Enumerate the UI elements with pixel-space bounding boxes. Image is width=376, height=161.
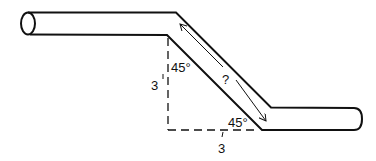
left-pipe-end-icon	[21, 13, 35, 35]
pipe-offset-diagram: 45° 3 ? 45° 3	[0, 0, 376, 161]
lower-angle-label: 45°	[228, 115, 248, 130]
horizontal-run-label: 3	[218, 141, 225, 156]
pipe-outline	[28, 13, 362, 131]
upper-angle-label: 45°	[171, 60, 191, 75]
dimension-ticks	[163, 74, 223, 137]
diagonal-length-label: ?	[222, 72, 229, 87]
vertical-offset-label: 3	[151, 78, 158, 93]
